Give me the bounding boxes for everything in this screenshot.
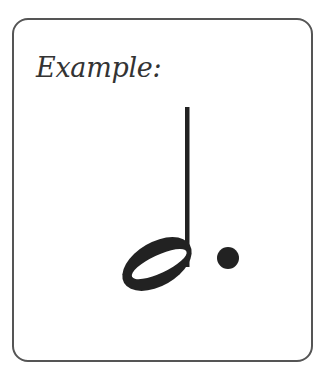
- augmentation-dot: [217, 247, 239, 269]
- dotted-half-note-icon: [0, 0, 332, 366]
